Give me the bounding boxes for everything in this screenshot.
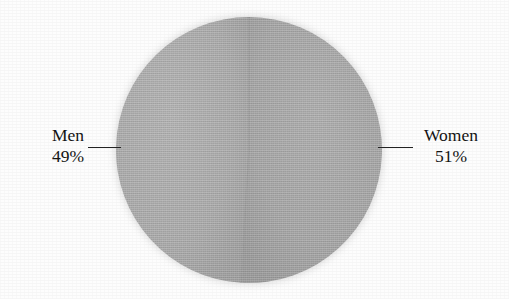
slice-label-women-percent: 51% xyxy=(424,146,478,167)
leader-line-men xyxy=(88,147,121,148)
slice-label-women: Women 51% xyxy=(424,125,478,167)
slice-label-men-name: Men xyxy=(52,125,84,146)
pie-chart xyxy=(116,17,382,283)
pie-svg xyxy=(116,17,382,283)
pie-chart-figure: Men 49% Women 51% xyxy=(0,0,509,299)
slice-label-men-percent: 49% xyxy=(52,146,84,167)
slice-label-women-name: Women xyxy=(424,125,478,146)
slice-label-men: Men 49% xyxy=(52,125,84,167)
leader-line-women xyxy=(378,147,413,148)
pie-slice-men xyxy=(116,17,249,283)
pie-slice-women xyxy=(241,17,382,283)
